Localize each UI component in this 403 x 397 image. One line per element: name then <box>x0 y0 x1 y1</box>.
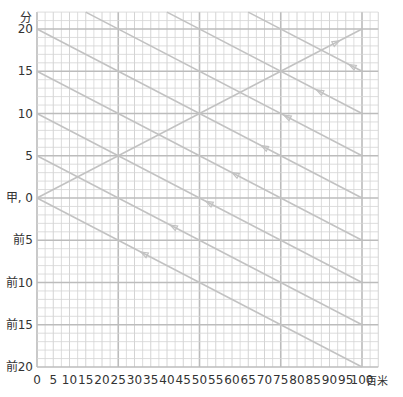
x-tick-label: 55 <box>208 373 223 387</box>
x-tick-label: 70 <box>257 373 272 387</box>
x-tick-label: 90 <box>322 373 337 387</box>
x-tick-label: 50 <box>192 373 207 387</box>
x-tick-label: 20 <box>94 373 109 387</box>
y-tick-label: 前5 <box>13 232 33 247</box>
y-tick-label: 前20 <box>6 359 33 374</box>
x-tick-label: 0 <box>33 373 41 387</box>
x-tick-label: 85 <box>306 373 321 387</box>
x-tick-label: 30 <box>127 373 142 387</box>
y-tick-label: 15 <box>18 64 33 78</box>
x-tick-label: 75 <box>273 373 288 387</box>
x-axis-unit-label: 百米 <box>366 375 388 388</box>
x-tick-label: 35 <box>143 373 158 387</box>
x-tick-label: 45 <box>176 373 191 387</box>
x-tick-label: 10 <box>62 373 77 387</box>
schedule-chart: 2015105甲, 0前5前10前15前20 05101520253035404… <box>0 0 403 397</box>
y-axis-unit-label: 分 <box>20 11 32 25</box>
grid <box>37 12 378 367</box>
x-tick-label: 25 <box>111 373 126 387</box>
x-tick-label: 15 <box>78 373 93 387</box>
y-tick-label: 前15 <box>6 317 33 332</box>
x-tick-label: 5 <box>49 373 57 387</box>
x-tick-label: 60 <box>224 373 239 387</box>
y-tick-label: 10 <box>18 107 33 121</box>
y-tick-label: 甲, 0 <box>6 191 33 205</box>
x-axis-labels: 0510152025303540455055606570758085909510… <box>33 373 373 387</box>
x-tick-label: 40 <box>159 373 174 387</box>
y-tick-label: 前10 <box>6 275 33 290</box>
x-tick-label: 65 <box>241 373 256 387</box>
x-tick-label: 80 <box>289 373 304 387</box>
y-tick-label: 5 <box>25 149 33 163</box>
y-axis-labels: 2015105甲, 0前5前10前15前20 <box>6 22 33 374</box>
